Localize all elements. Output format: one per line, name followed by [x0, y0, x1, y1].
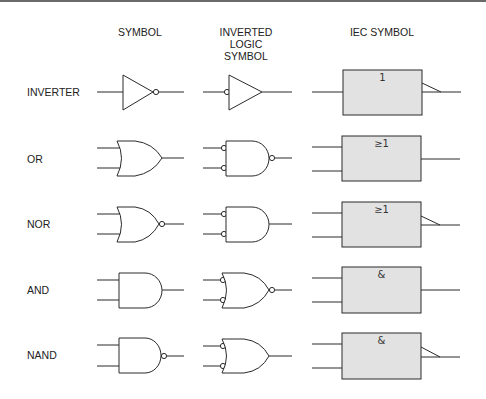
iec-label-nand: &	[342, 335, 421, 346]
and-inverted-symbol	[203, 273, 292, 308]
inverter-symbol	[97, 75, 184, 110]
iec-label-nor: ≥1	[342, 204, 421, 215]
iec-label-inverter: 1	[343, 72, 422, 83]
iec-label-or: ≥1	[342, 138, 421, 149]
inverter-inverted-symbol	[203, 75, 292, 110]
or-symbol	[97, 141, 184, 176]
nor-symbol	[97, 207, 184, 242]
nor-inverted-symbol	[203, 207, 292, 242]
nand-inverted-symbol	[203, 339, 292, 373]
iec-label-and: &	[342, 269, 421, 280]
or-inverted-symbol	[203, 141, 292, 176]
nand-symbol	[97, 338, 184, 373]
and-symbol	[97, 273, 184, 308]
